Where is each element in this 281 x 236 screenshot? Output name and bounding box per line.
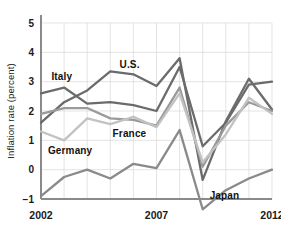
y-axis-title: Inflation rate (percent) — [5, 63, 16, 158]
y-tick-label: 1 — [28, 135, 34, 146]
x-tick-labels-group: 200220072012 — [29, 209, 281, 221]
series-label-italy: Italy — [51, 71, 72, 82]
y-tick-label: 4 — [28, 47, 34, 58]
series-label-france: France — [113, 128, 147, 139]
inflation-rate-line-chart: 543210−1 200220072012 ItalyU.S.FranceGer… — [0, 0, 281, 236]
series-label-us: U.S. — [120, 59, 140, 70]
x-tick-label: 2002 — [29, 209, 53, 221]
x-tick-label: 2012 — [260, 209, 281, 221]
y-tick-label: 3 — [28, 76, 34, 87]
y-tick-label: −1 — [23, 194, 35, 205]
y-tick-label: 2 — [28, 106, 34, 117]
y-axis-title-group: Inflation rate (percent) — [5, 63, 16, 158]
series-label-japan: Japan — [210, 190, 240, 201]
y-tick-labels-group: 543210−1 — [23, 18, 35, 205]
x-tick-label: 2007 — [145, 209, 169, 221]
series-label-germany: Germany — [48, 145, 93, 156]
y-tick-label: 5 — [28, 18, 34, 29]
y-tick-label: 0 — [28, 164, 34, 175]
chart-canvas: 543210−1 200220072012 ItalyU.S.FranceGer… — [0, 0, 281, 236]
